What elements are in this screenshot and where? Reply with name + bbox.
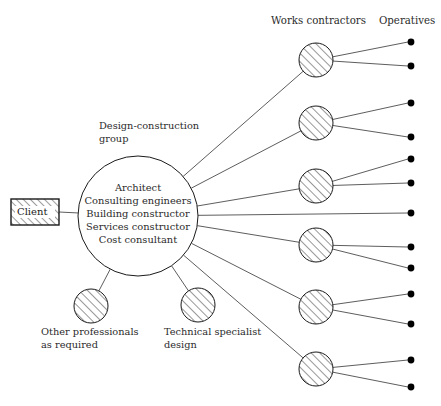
connector-contractor-4-to-operative-10 [333,310,408,324]
satellite-nodes [74,288,215,323]
operative-dot-10 [408,321,415,328]
connector-contractor-2-to-operative-4 [332,159,408,181]
operative-dot-6 [408,210,415,217]
connector-group-to-satellite-0 [99,269,110,291]
client-label: Client [17,206,47,217]
operative-dot-9 [408,291,415,298]
connector-contractor-5-to-operative-11 [333,360,408,367]
satellite-caption-technical-specialist-line2: design [164,339,197,351]
works-contractor-circle-5 [299,352,333,386]
design-group-caption-line1: Design-construction [99,120,199,132]
operative-nodes [408,39,415,391]
column-header-operatives: Operatives [379,15,435,27]
works-contractor-circle-2 [299,169,333,203]
operative-dot-7 [408,244,415,251]
works-contractor-circle-0 [299,43,333,77]
connector-client-to-group [59,212,78,213]
connector-group-to-satellite-1 [172,266,189,291]
design-group-member-list: Architect Consulting engineers Building … [78,182,198,246]
operative-dot-0 [408,39,415,46]
works-contractor-circle-3 [299,228,333,262]
connector-group-to-contractor-1 [191,131,301,188]
connector-contractor-3-to-operative-8 [333,249,408,268]
column-header-works-contractors: Works contractors [271,15,366,27]
connector-contractor-0-to-operative-1 [333,61,408,66]
connector-group-to-operative-direct [198,213,408,215]
operative-dot-4 [408,156,415,163]
operative-dot-8 [408,265,415,272]
operative-dot-5 [408,180,415,187]
operative-dot-3 [408,134,415,141]
connector-contractor-2-to-operative-5 [333,183,408,185]
operative-dot-2 [408,100,415,107]
connector-contractor-4-to-operative-9 [333,294,408,305]
connector-group-to-contractor-2 [197,189,299,206]
design-group-caption-line2: group [99,133,128,145]
connector-contractor-1-to-operative-3 [333,125,408,137]
connector-contractor-3-to-operative-7 [333,245,408,247]
connector-group-to-contractor-3 [197,226,299,243]
operative-dot-12 [408,384,415,391]
connector-contractor-0-to-operative-0 [333,42,408,57]
satellite-caption-technical-specialist-line1: Technical specialist [164,326,261,338]
connector-contractor-1-to-operative-2 [333,103,408,119]
works-contractor-circle-4 [299,290,333,324]
organisation-chart-diagram: Works contractors Operatives Design-cons… [0,0,441,406]
works-contractor-circle-1 [299,106,333,140]
satellite-caption-other-professionals-line1: Other professionals [41,326,139,338]
satellite-circle-other-professionals [74,289,108,323]
operative-dot-11 [408,357,415,364]
satellite-circle-technical-specialist [181,288,215,322]
satellite-caption-other-professionals-line2: as required [41,339,98,351]
connector-contractor-5-to-operative-12 [333,372,408,387]
operative-dot-1 [408,63,415,70]
